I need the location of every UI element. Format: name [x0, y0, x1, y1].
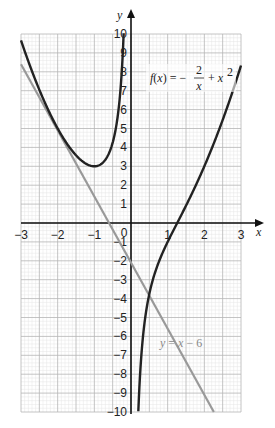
function-graph: x y −3−2−1123010987654321−1−2−3−4−5−6−7−…	[0, 0, 275, 428]
y-tick-label: −3	[113, 273, 127, 287]
y-axis-arrow-icon	[127, 9, 135, 18]
y-tick-label: 1	[120, 197, 127, 211]
x-tick-label: −3	[14, 228, 28, 242]
y-tick-label: −6	[113, 329, 127, 343]
y-tick-label: −8	[113, 367, 127, 381]
x-tick-label: −2	[51, 228, 65, 242]
svg-text:2: 2	[227, 65, 233, 79]
svg-text:2: 2	[196, 63, 202, 77]
line-label: y = x − 6	[159, 336, 202, 350]
y-axis-label: y	[116, 8, 123, 22]
y-tick-label: −10	[107, 405, 128, 419]
svg-text:x: x	[195, 79, 202, 93]
y-tick-label: 10	[114, 27, 128, 41]
x-tick-label: 3	[238, 228, 245, 242]
function-label: f(x) = − 2 x + x 2	[146, 63, 236, 93]
x-axis-label: x	[255, 225, 262, 239]
y-tick-label: −5	[113, 311, 127, 325]
svg-text:y = x − 6: y = x − 6	[159, 336, 202, 350]
y-tick-label: 2	[120, 178, 127, 192]
svg-text:f(x) = −: f(x) = −	[150, 71, 186, 85]
y-tick-label: 6	[120, 103, 127, 117]
x-tick-label: −1	[87, 228, 101, 242]
y-tick-label: −7	[113, 348, 127, 362]
svg-text:+ x: + x	[208, 71, 224, 85]
y-tick-label: 3	[120, 159, 127, 173]
y-tick-label: 5	[120, 122, 127, 136]
y-tick-label: −2	[113, 254, 127, 268]
y-tick-label: −4	[113, 292, 127, 306]
y-tick-label: −9	[113, 386, 127, 400]
y-tick-label: 4	[120, 140, 127, 154]
x-tick-label: 2	[201, 228, 208, 242]
